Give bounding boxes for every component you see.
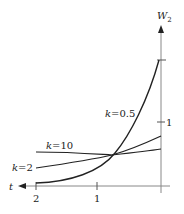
curve-label-k-2: k=2: [12, 162, 33, 173]
curve-label-k-0.5: k=0.5: [105, 108, 135, 119]
x-tick-label-1: 1: [94, 193, 100, 204]
x-tick-label-2: 2: [33, 193, 39, 204]
curve-k-0.5: [36, 60, 159, 183]
x-axis-arrow-icon: [18, 183, 26, 189]
curve-label-k-10: k=10: [46, 140, 73, 151]
x-axis-label: t: [9, 181, 14, 192]
y-tick-label-1: 1: [166, 117, 172, 128]
plot: W2 t 2 1 1 k=0.5 k=10 k=2: [0, 0, 184, 214]
y-axis-label: W2: [157, 10, 172, 24]
y-axis-arrow-icon: [158, 25, 164, 33]
